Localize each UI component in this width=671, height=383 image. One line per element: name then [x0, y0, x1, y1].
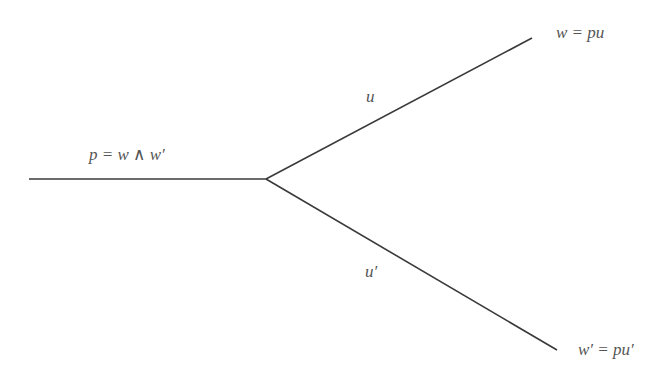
top-edge-label: u — [366, 88, 375, 105]
top-node-label: w = pu — [556, 24, 604, 41]
bottom-branch-edge — [266, 179, 557, 350]
tree-diagram — [0, 0, 671, 383]
root-node-label: p = w ∧ w′ — [89, 146, 165, 163]
top-branch-edge — [266, 38, 532, 179]
bottom-node-label: w′ = pu′ — [578, 341, 634, 358]
bottom-edge-label: u′ — [365, 263, 377, 280]
